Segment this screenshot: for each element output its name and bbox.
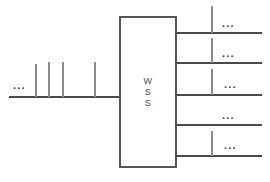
output-port-1-baseline <box>175 32 262 34</box>
input-baseline <box>9 96 121 98</box>
diagram-canvas: ... W S S ... ... ... ... <box>0 0 270 182</box>
wss-device-box[interactable]: W S S <box>119 16 177 168</box>
output-port-3-ellipsis: ... <box>224 79 237 89</box>
input-channel-3-tick <box>62 62 64 97</box>
output-port-2-baseline <box>175 62 262 64</box>
output-port-5-ellipsis: ... <box>224 140 237 150</box>
wss-label-line-2: S <box>145 87 152 98</box>
output-port-4-ellipsis: ... <box>222 110 235 120</box>
output-port-1-ellipsis: ... <box>222 18 235 28</box>
input-ellipsis: ... <box>13 80 26 90</box>
input-channel-4-tick <box>94 62 96 97</box>
input-channel-2-tick <box>48 62 50 97</box>
output-port-4-baseline <box>175 124 262 126</box>
output-port-3-baseline <box>175 94 262 96</box>
output-port-2-ellipsis: ... <box>222 48 235 58</box>
output-port-2-tick <box>211 38 213 63</box>
output-port-1-tick <box>211 6 213 33</box>
input-channel-1-tick <box>35 64 37 97</box>
output-port-5-baseline <box>175 155 262 157</box>
output-port-5-tick <box>211 131 213 156</box>
output-port-3-tick <box>211 69 213 95</box>
wss-label-line-3: S <box>145 98 152 109</box>
wss-label-line-1: W <box>144 76 153 87</box>
